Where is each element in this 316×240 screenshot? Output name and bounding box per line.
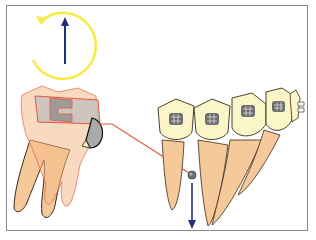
bracket-icon (241, 105, 255, 117)
up-arrowhead-icon (61, 17, 69, 26)
downward-force-arrow (188, 183, 196, 229)
anterior-tooth (290, 90, 304, 122)
anterior-teeth (158, 88, 304, 226)
bracket-icon (169, 113, 183, 125)
diagram-canvas (0, 0, 316, 240)
down-arrowhead-icon (188, 220, 196, 229)
miniscrew (188, 171, 196, 179)
upward-force-arrow (61, 17, 69, 64)
anterior-tooth (158, 99, 194, 210)
molar (14, 86, 103, 218)
bracket-icon (205, 113, 219, 125)
bracket-icon (272, 101, 285, 112)
